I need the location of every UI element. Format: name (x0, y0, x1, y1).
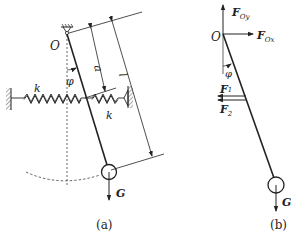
extension-line-top (69, 12, 142, 33)
dimension-a (91, 28, 105, 91)
angle-label-a: φ (66, 75, 74, 88)
dimension-a-label: a (91, 64, 105, 73)
right-wall-support (124, 90, 128, 106)
weight-label-b: G (282, 196, 291, 209)
figure-b: FOy FOx O φ F1 F2 G (b) (211, 5, 291, 232)
extension-line-bottom (111, 154, 164, 170)
dimension-l (112, 21, 152, 156)
angle-arc (67, 68, 76, 70)
force-1-label: F1 (219, 83, 232, 96)
caption-b: (b) (270, 218, 287, 232)
pendulum-diagram: O φ G k k a (0, 0, 291, 243)
angle-arc-b (223, 64, 231, 66)
rod-b (223, 34, 274, 178)
pivot-label-a: O (50, 39, 60, 53)
caption-a: (a) (96, 218, 113, 232)
pivot-label-b: O (211, 30, 221, 44)
weight-label-a: G (116, 187, 125, 200)
figure-a: O φ G k k a (6, 12, 164, 232)
spring-right-label: k (106, 109, 113, 122)
swing-arc (26, 172, 100, 181)
dimension-l-label: l (116, 72, 130, 79)
angle-label-b: φ (225, 68, 232, 79)
force-2-label: F2 (219, 103, 233, 118)
spring-left-label: k (34, 82, 41, 95)
force-oy-label: FOy (231, 6, 251, 21)
pivot-support-icon (61, 24, 73, 35)
force-ox-label: FOx (256, 29, 275, 44)
right-spring (86, 94, 124, 102)
left-wall (6, 88, 11, 110)
